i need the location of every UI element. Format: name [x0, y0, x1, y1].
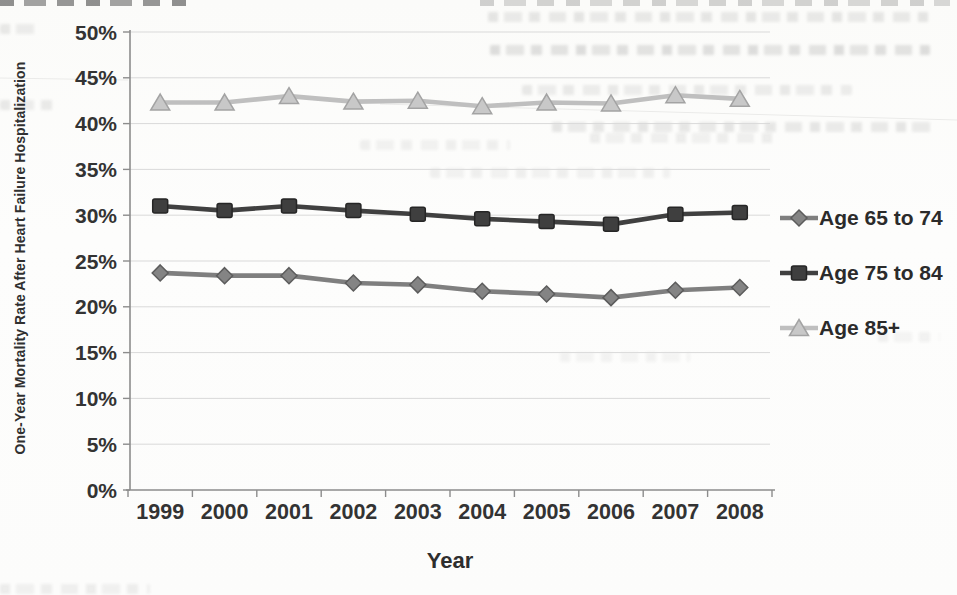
legend-item-age-75-84: Age 75 to 84: [780, 261, 943, 285]
x-tick-label: 2002: [329, 500, 377, 524]
square-marker-icon: [732, 205, 747, 219]
diamond-marker-icon: [667, 282, 683, 298]
x-tick-label: 2006: [587, 500, 635, 524]
legend-label: Age 65 to 74: [819, 206, 943, 230]
square-marker-icon: [539, 215, 554, 229]
square-marker-icon: [792, 266, 807, 280]
x-axis-title: Year: [128, 548, 772, 574]
diamond-marker-icon: [539, 286, 555, 302]
series-age-65-to-74: [152, 265, 748, 306]
diamond-marker-icon: [780, 206, 818, 230]
square-marker-icon: [282, 199, 297, 213]
y-tick-label: 20%: [75, 295, 117, 318]
y-tick-label: 25%: [75, 250, 117, 273]
square-marker-icon: [153, 199, 168, 213]
diamond-marker-icon: [603, 290, 619, 306]
x-tick-label: 2005: [523, 500, 571, 524]
diamond-marker-icon: [281, 268, 297, 284]
y-tick-label: 45%: [75, 66, 117, 89]
legend-item-age-65-74: Age 65 to 74: [780, 206, 943, 230]
square-marker-icon: [604, 217, 619, 231]
x-tick-label: 2003: [394, 500, 442, 524]
scanned-page: 0%5%10%15%20%25%30%35%40%45%50%199920002…: [0, 0, 957, 595]
y-tick-label: 5%: [87, 433, 118, 456]
legend-item-age-85plus: Age 85+: [780, 316, 943, 340]
y-tick-label: 0%: [87, 479, 118, 502]
diamond-marker-icon: [474, 283, 490, 299]
diamond-marker-icon: [152, 265, 168, 281]
triangle-marker-icon: [780, 316, 818, 340]
square-marker-icon: [217, 204, 232, 218]
x-tick-label: 2000: [201, 500, 249, 524]
x-tick-label: 2001: [265, 500, 313, 524]
y-tick-label: 35%: [75, 158, 117, 181]
y-tick-label: 10%: [75, 387, 117, 410]
y-tick-label: 40%: [75, 112, 117, 135]
square-marker-icon: [475, 212, 490, 226]
x-tick-label: 2008: [716, 500, 764, 524]
diamond-marker-icon: [345, 275, 361, 291]
y-tick-label: 15%: [75, 341, 117, 364]
diamond-marker-icon: [732, 280, 748, 296]
series-line: [160, 95, 740, 106]
square-marker-icon: [668, 207, 683, 221]
square-marker-icon: [780, 261, 818, 285]
diamond-marker-icon: [791, 210, 807, 226]
legend: Age 65 to 74 Age 75 to 84 Age 85+: [780, 206, 943, 340]
square-marker-icon: [410, 207, 425, 221]
y-tick-label: 50%: [75, 21, 117, 44]
diamond-marker-icon: [217, 268, 233, 284]
x-tick-label: 1999: [136, 500, 184, 524]
x-tick-label: 2004: [458, 500, 506, 524]
series-line: [160, 273, 740, 298]
square-marker-icon: [346, 204, 361, 218]
x-tick-label: 2007: [651, 500, 699, 524]
y-tick-label: 30%: [75, 204, 117, 227]
y-axis-title: One-Year Mortality Rate After Heart Fail…: [12, 29, 28, 487]
series-age-85-: [151, 87, 750, 114]
diamond-marker-icon: [410, 277, 426, 293]
legend-label: Age 75 to 84: [819, 261, 943, 285]
legend-label: Age 85+: [819, 316, 900, 340]
